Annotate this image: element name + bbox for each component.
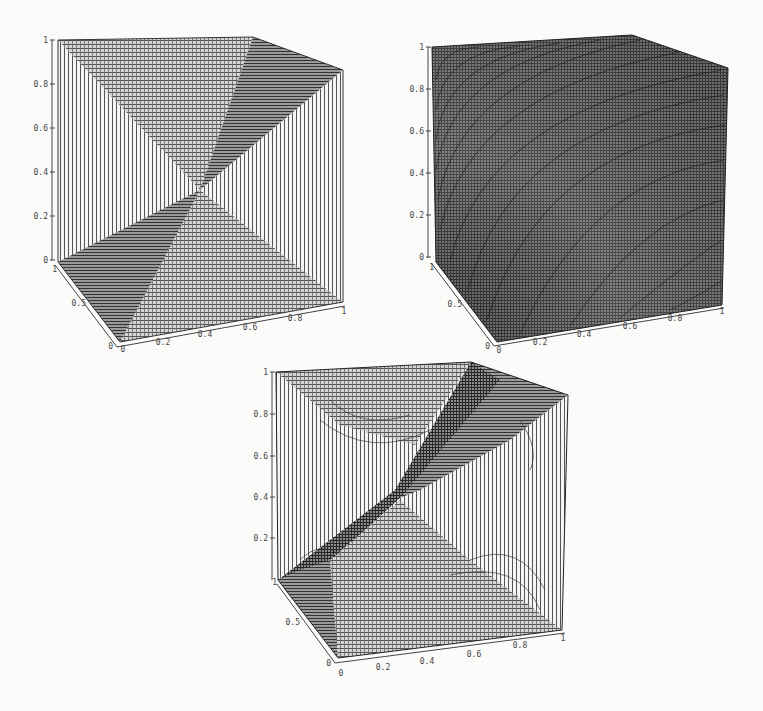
svg-text:0.8: 0.8	[513, 641, 528, 650]
svg-text:0: 0	[339, 669, 344, 678]
svg-text:1: 1	[263, 368, 268, 377]
svg-text:0.2: 0.2	[376, 663, 391, 672]
plot-3-z-tick-labels: 1 0.8 0.6 0.4 0.2	[254, 368, 269, 543]
svg-text:0.6: 0.6	[467, 650, 482, 659]
surface-plot-3: 1 0.8 0.6 0.4 0.2 1 0.5 0 0 0.2 0.4 0.6 …	[0, 0, 763, 711]
svg-text:0.4: 0.4	[420, 657, 435, 666]
svg-text:0.4: 0.4	[254, 493, 269, 502]
svg-text:0.8: 0.8	[254, 410, 269, 419]
svg-text:1: 1	[272, 578, 277, 587]
svg-text:0.2: 0.2	[254, 534, 269, 543]
svg-text:1: 1	[561, 634, 566, 643]
svg-text:0.6: 0.6	[254, 452, 269, 461]
svg-text:0.5: 0.5	[286, 618, 301, 627]
svg-text:0: 0	[326, 659, 331, 668]
